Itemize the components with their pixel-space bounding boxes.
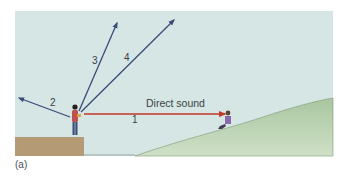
sound-propagation-diagram: 2 3 4 1 Direct sound <box>0 0 350 182</box>
direct-sound-label: Direct sound <box>146 97 205 109</box>
cliff <box>15 137 84 156</box>
ray-3-label: 3 <box>92 55 98 66</box>
ray-1-label: 1 <box>132 114 138 125</box>
ray-2-label: 2 <box>50 97 56 108</box>
ray-4-label: 4 <box>124 52 130 63</box>
figure-caption: (a) <box>15 159 27 170</box>
